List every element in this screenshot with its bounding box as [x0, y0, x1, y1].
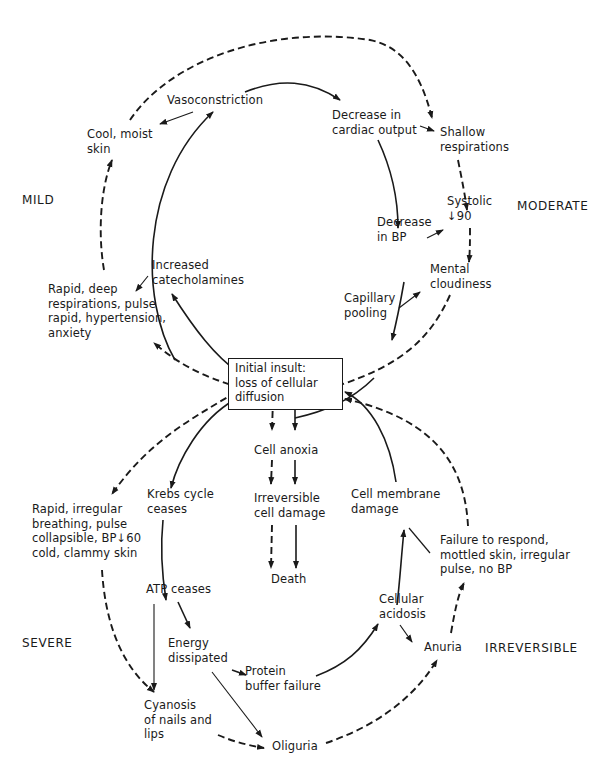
node-decrease-bp: Decrease in BP: [377, 215, 432, 244]
node-protein-buffer-failure: Protein buffer failure: [245, 664, 321, 693]
node-krebs-cycle-ceases: Krebs cycle ceases: [147, 487, 214, 516]
node-oliguria: Oliguria: [272, 739, 318, 754]
node-atp-ceases: ATP ceases: [146, 582, 211, 597]
node-failure-to-respond: Failure to respond, mottled skin, irregu…: [440, 533, 570, 577]
node-decrease-cardiac-output: Decrease in cardiac output: [332, 108, 417, 137]
node-energy-dissipated: Energy dissipated: [168, 636, 228, 665]
stage-label-severe: SEVERE: [22, 636, 73, 650]
node-capillary-pooling: Capillary pooling: [344, 291, 395, 320]
node-shallow-respirations: Shallow respirations: [440, 125, 509, 154]
stage-label-moderate: MODERATE: [517, 199, 588, 213]
node-rapid-deep-respirations: Rapid, deep respirations, pulse rapid, h…: [48, 282, 166, 340]
node-mental-cloudiness: Mental cloudiness: [430, 262, 492, 291]
initial-insult-box: Initial insult: loss of cellular diffusi…: [228, 358, 343, 410]
node-vasoconstriction: Vasoconstriction: [167, 93, 263, 108]
node-cell-membrane-damage: Cell membrane damage: [351, 487, 440, 516]
node-cellular-acidosis: Cellular acidosis: [379, 592, 426, 621]
shock-cycle-diagram: MILD MODERATE SEVERE IRREVERSIBLE Initia…: [0, 0, 608, 772]
node-cell-anoxia: Cell anoxia: [254, 443, 318, 458]
node-anuria: Anuria: [424, 640, 462, 655]
node-death: Death: [271, 572, 306, 587]
node-cool-moist-skin: Cool, moist skin: [87, 127, 153, 156]
node-irreversible-cell-damage: Irreversible cell damage: [254, 491, 326, 520]
stage-label-irreversible: IRREVERSIBLE: [485, 641, 578, 655]
node-cyanosis: Cyanosis of nails and lips: [144, 698, 212, 742]
node-systolic-90: Systolic ↓90: [447, 194, 492, 223]
node-rapid-irregular-breathing: Rapid, irregular breathing, pulse collap…: [32, 502, 141, 560]
stage-label-mild: MILD: [22, 193, 54, 207]
